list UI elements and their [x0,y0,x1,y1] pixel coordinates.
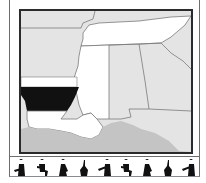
fiddler-silhouette-icon [97,159,113,177]
fiddler-silhouette-icon [181,159,197,177]
north-texas-strip [21,77,77,87]
musician-strip [10,157,199,177]
seated-guitarist-silhouette-icon [34,159,50,177]
guitarist-silhouette-icon [13,159,29,177]
upright-bass-silhouette-icon [76,159,92,177]
map-frame [19,9,193,154]
guitarist-silhouette-icon [55,159,71,177]
southern-us-map [21,11,191,152]
guitarist-silhouette-icon [139,159,155,177]
seated-guitarist-silhouette-icon [118,159,134,177]
upright-bass-silhouette-icon [160,159,176,177]
